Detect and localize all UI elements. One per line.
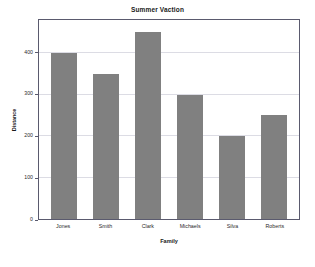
x-axis-tick-label: Clark [127,223,169,229]
x-axis-tick-labels: JonesSmithClarkMichaelsSilvaRoberts [38,223,300,229]
bar[interactable] [177,95,203,219]
x-axis-title: Family [38,238,300,244]
bar-slot [211,20,253,219]
bar-slot [169,20,211,219]
bar-slot [127,20,169,219]
bar-slot [85,20,127,219]
y-axis-tick-label: 400 [24,49,33,55]
bar-chart: Summer Vaction Distance 0100200300400 Jo… [0,0,315,267]
bar-slot [253,20,295,219]
x-axis-tick-label: Silva [211,223,253,229]
y-axis-tick-label: 0 [30,216,33,222]
plot-area [38,19,300,220]
y-axis-tick-label: 300 [24,90,33,96]
bar[interactable] [51,53,77,219]
y-axis-tick-label: 200 [24,132,33,138]
x-axis-tick-label: Michaels [169,223,211,229]
y-axis-tick-label: 100 [24,174,33,180]
chart-title: Summer Vaction [0,6,315,13]
bar[interactable] [135,32,161,219]
bar[interactable] [261,115,287,219]
bar[interactable] [93,74,119,219]
x-axis-tick-label: Roberts [254,223,296,229]
bar-slot [43,20,85,219]
x-axis-tick-label: Jones [42,223,84,229]
x-axis-tick-label: Smith [84,223,126,229]
y-axis-ticks: 0100200300400 [0,19,38,220]
bar[interactable] [219,136,245,219]
bars-container [39,20,299,219]
